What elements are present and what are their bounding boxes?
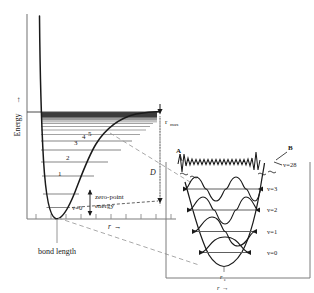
main-x-axis-arrow: →	[114, 222, 122, 231]
re-label-subscript: e	[224, 277, 226, 282]
inset-label-v1: v=1	[267, 228, 277, 235]
bond-length-label: bond length	[38, 247, 76, 256]
morse-potential-figure: Energy → 5 4 3 2 1 v=0 r	[0, 0, 314, 293]
inset-x-label-group: r →	[217, 284, 229, 291]
level-number-5: 5	[88, 130, 92, 138]
dissociation-energy-label: D	[149, 168, 156, 177]
inset-v28-label: v=28	[283, 161, 296, 168]
level-number-4: 4	[82, 133, 86, 141]
continuum-fade-1	[41, 117, 157, 120]
y-axis-label: Energy	[13, 114, 22, 137]
level-number-1: 1	[58, 170, 62, 178]
zero-point-energy-label-line2: energy	[95, 202, 114, 210]
continuum-fade-2	[41, 120, 157, 123]
r-max-label-subscript: max	[170, 122, 179, 127]
inset-label-v0: v=0	[267, 249, 277, 256]
inset-label-v2: v=2	[267, 206, 277, 213]
level-number-3: 3	[74, 139, 78, 147]
main-x-axis-label: r	[108, 222, 111, 231]
main-x-label-group: r →	[108, 222, 122, 231]
zero-point-energy-label-line1: zero-point	[95, 193, 124, 201]
inset-x-axis-arrow: →	[222, 284, 229, 291]
point-b-label: B	[288, 144, 293, 152]
point-a-label: A	[176, 147, 181, 155]
inset-label-v3: v=3	[267, 185, 277, 192]
y-axis-arrow: →	[13, 96, 22, 104]
level-number-2: 2	[66, 154, 70, 162]
y-axis-label-group: Energy →	[13, 96, 22, 136]
